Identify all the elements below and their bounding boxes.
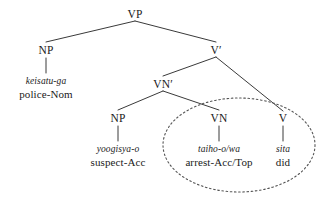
leaf-v: sita did <box>276 143 290 168</box>
edge-vbar-to-vnbar <box>163 57 216 76</box>
leaf-subject: keisatu-ga police-Nom <box>19 75 73 100</box>
leaf-v-gloss: did <box>276 156 290 169</box>
node-vn: VN <box>210 112 227 124</box>
node-np-object: NP <box>110 112 125 124</box>
edge-vp-to-np <box>46 21 135 42</box>
tree-edges-layer <box>0 0 329 203</box>
node-v: V <box>279 112 288 124</box>
syntax-tree-figure: VP NP V′ VN′ NP VN V keisatu-ga police-N… <box>0 0 329 203</box>
node-np-subject: NP <box>38 44 53 56</box>
node-v-bar: V′ <box>210 44 221 56</box>
edge-vnbar-to-vn <box>163 91 219 110</box>
leaf-vn-gloss: arrest-Acc/Top <box>185 156 252 169</box>
leaf-vn: taiho-o/wa arrest-Acc/Top <box>185 143 252 168</box>
edge-vp-to-vbar <box>135 21 216 42</box>
leaf-object-gloss: suspect-Acc <box>91 156 146 169</box>
leaf-subject-form: keisatu-ga <box>19 75 73 88</box>
leaf-object: yoogisya-o suspect-Acc <box>91 143 146 168</box>
node-vn-bar: VN′ <box>153 78 173 90</box>
leaf-object-form: yoogisya-o <box>91 143 146 156</box>
edge-vnbar-to-np-object <box>118 91 163 110</box>
node-vp: VP <box>127 8 142 20</box>
leaf-subject-gloss: police-Nom <box>19 88 73 101</box>
leaf-v-form: sita <box>276 143 290 156</box>
leaf-vn-form: taiho-o/wa <box>185 143 252 156</box>
